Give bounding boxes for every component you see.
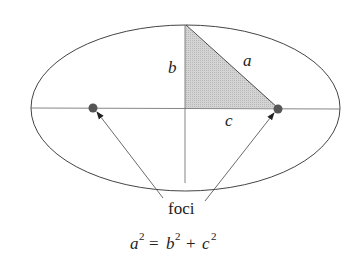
label-a: a xyxy=(243,51,252,70)
svg-text:+: + xyxy=(186,234,196,253)
label-foci: foci xyxy=(168,199,195,218)
label-b: b xyxy=(168,58,177,77)
svg-text:c: c xyxy=(202,234,210,253)
svg-text:=: = xyxy=(149,234,159,253)
svg-text:a: a xyxy=(130,234,139,253)
equation: a 2 = b 2 + c 2 xyxy=(130,230,217,253)
svg-text:b: b xyxy=(166,234,175,253)
ellipse-diagram: b a c foci a 2 = b 2 + c 2 xyxy=(0,0,360,272)
svg-text:2: 2 xyxy=(175,230,181,242)
svg-text:2: 2 xyxy=(211,230,217,242)
major-axis xyxy=(31,108,340,109)
focus-left xyxy=(89,104,98,113)
focus-right xyxy=(274,105,283,114)
label-c: c xyxy=(225,111,233,130)
svg-text:2: 2 xyxy=(139,230,145,242)
arrow-to-right-focus xyxy=(205,113,274,201)
